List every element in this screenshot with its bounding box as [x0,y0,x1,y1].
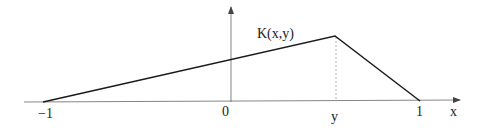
x-axis-label: x [450,104,457,119]
tick-label-zero: 0 [222,104,229,119]
tick-label-y: y [331,109,338,124]
function-label: K(x,y) [257,26,294,42]
tick-label-one: 1 [416,104,423,119]
kernel-curve [43,36,420,102]
kernel-diagram: K(x,y) −1 0 y 1 x [0,0,482,130]
x-axis [24,100,460,102]
tick-label-minus-one: −1 [38,106,53,121]
